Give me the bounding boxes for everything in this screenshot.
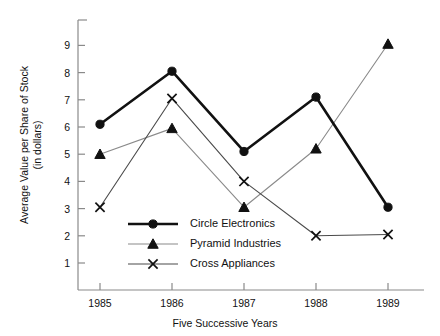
legend-marker-triangle [128, 239, 178, 248]
circle-marker-icon [384, 203, 392, 211]
legend-label-circle-electronics: Circle Electronics [190, 218, 275, 229]
y-tick-label: 5 [52, 149, 70, 160]
x-axis-title: Five Successive Years [155, 317, 295, 330]
x-tick-label-1986: 1986 [147, 298, 197, 309]
legend-marker-circle [128, 220, 178, 228]
y-axis-title: Average Value per Share of Stock(in doll… [18, 15, 44, 275]
y-tick-label: 9 [52, 40, 70, 51]
legend-label-pyramid-industries: Pyramid Industries [190, 238, 281, 249]
triangle-marker-icon [167, 123, 177, 132]
x-tick-label-1989: 1989 [363, 298, 413, 309]
triangle-marker-icon [383, 39, 393, 48]
triangle-marker-icon [95, 149, 105, 158]
legend-label-cross-appliances: Cross Appliances [190, 258, 275, 269]
x-tick-label-1985: 1985 [75, 298, 125, 309]
series-pyramid-industries [95, 39, 393, 212]
y-tick-label: 4 [52, 176, 70, 187]
x-tick-label-1987: 1987 [219, 298, 269, 309]
y-tick-label: 6 [52, 122, 70, 133]
data-series-group [95, 39, 393, 241]
y-tick-label: 3 [52, 204, 70, 215]
legend-marker-cross [128, 259, 178, 268]
x-tick-label-1988: 1988 [291, 298, 341, 309]
y-axis-title-line: Average Value per Share of Stock [18, 15, 31, 275]
y-tick-label: 8 [52, 68, 70, 79]
circle-marker-icon [149, 220, 157, 228]
circle-marker-icon [240, 147, 248, 155]
y-axis-title-line: (in dollars) [31, 15, 44, 275]
circle-marker-icon [96, 120, 104, 128]
circle-marker-icon [168, 67, 176, 75]
y-tick-label: 2 [52, 231, 70, 242]
line-chart: 123456789 19851986198719881989 Average V… [0, 0, 440, 336]
circle-marker-icon [312, 93, 320, 101]
y-tick-label: 7 [52, 95, 70, 106]
triangle-marker-icon [311, 144, 321, 153]
y-tick-label: 1 [52, 258, 70, 269]
legend-marker-group [128, 220, 178, 269]
axes [78, 20, 424, 290]
